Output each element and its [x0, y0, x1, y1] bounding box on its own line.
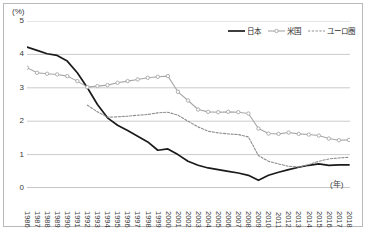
x-axis-tick-label: 1997	[134, 211, 142, 228]
legend-label: ユーロ圏	[327, 28, 355, 36]
data-point-marker	[66, 74, 69, 77]
y-axis-tick-label: 5	[20, 17, 24, 25]
x-axis-tick-label: 1986	[23, 211, 31, 228]
data-point-marker	[227, 110, 230, 113]
x-axis-tick-label: 2018	[345, 211, 353, 228]
x-axis-tick-label: 2012	[285, 211, 293, 228]
data-point-marker	[186, 99, 189, 102]
x-axis-tick-label: 2004	[204, 211, 212, 228]
data-point-marker	[55, 73, 58, 76]
data-point-marker	[76, 79, 79, 82]
x-axis-tick-label: 2011	[275, 212, 283, 228]
chart-container: (%) 012345 19861987198819891990199119921…	[0, 0, 366, 230]
data-point-marker	[116, 81, 119, 84]
y-axis-tick-label: 0	[20, 184, 24, 192]
x-axis-tick-label: 1992	[84, 211, 92, 228]
x-axis-tick-label: 1989	[53, 211, 61, 228]
data-point-marker	[257, 127, 260, 130]
series-line-1	[27, 68, 349, 140]
data-point-marker	[307, 133, 310, 136]
x-axis-tick-label: 1999	[154, 211, 162, 228]
x-axis-tick-label: 1990	[64, 211, 72, 228]
x-axis-tick-label: 1993	[94, 211, 102, 228]
x-axis-tick-label: 1998	[144, 211, 152, 228]
x-axis-tick-label: 2002	[184, 211, 192, 228]
x-axis-tick-label: 2000	[164, 211, 172, 228]
data-point-marker	[347, 138, 350, 141]
data-point-marker	[136, 78, 139, 81]
legend-item-2[interactable]: ユーロ圏	[308, 27, 355, 37]
y-axis-tick-label: 4	[20, 50, 24, 58]
plot-area: 012345	[27, 21, 350, 188]
y-axis-tick-label: 1	[20, 151, 24, 159]
data-point-marker	[126, 79, 129, 82]
data-point-marker	[337, 139, 340, 142]
legend-item-1[interactable]: 米国	[268, 27, 301, 37]
data-point-marker	[317, 134, 320, 137]
x-axis-tick-label: 2008	[245, 211, 253, 228]
data-point-marker	[106, 83, 109, 86]
x-axis-unit-label: (年)	[330, 178, 343, 189]
x-axis-tick-label: 2001	[174, 211, 182, 228]
legend-item-0[interactable]: 日本	[228, 27, 261, 37]
data-point-marker	[176, 90, 179, 93]
x-axis-tick-label: 1987	[33, 211, 41, 228]
x-axis-tick-label: 1991	[74, 211, 82, 228]
x-axis-tick-label: 1988	[43, 211, 51, 228]
x-axis-tick-label: 1994	[104, 211, 112, 228]
x-axis-tick-label: 2014	[305, 211, 313, 228]
data-point-marker	[327, 137, 330, 140]
x-axis-ticks: 1986198719881989199019911992199319941995…	[27, 190, 350, 228]
chart-legend: 日本米国ユーロ圏	[228, 27, 355, 37]
data-point-marker	[196, 108, 199, 111]
data-point-marker	[35, 71, 38, 74]
series-line-0	[27, 47, 349, 180]
data-point-marker	[96, 84, 99, 87]
x-axis-tick-label: 2009	[255, 211, 263, 228]
data-point-marker	[216, 110, 219, 113]
x-axis-tick-label: 1995	[114, 211, 122, 228]
legend-swatch-icon	[308, 27, 325, 37]
y-axis-tick-label: 2	[20, 117, 24, 125]
data-point-marker	[206, 110, 209, 113]
chart-plot-svg	[27, 21, 350, 188]
data-point-marker	[166, 74, 169, 77]
x-axis-tick-label: 2013	[295, 211, 303, 228]
legend-swatch-icon	[268, 27, 285, 37]
data-point-marker	[287, 131, 290, 134]
x-axis-tick-label: 2005	[214, 211, 222, 228]
data-point-marker	[237, 110, 240, 113]
x-axis-tick-label: 2006	[225, 211, 233, 228]
y-axis-unit-label: (%)	[12, 7, 24, 16]
data-point-marker	[156, 75, 159, 78]
x-axis-tick-label: 2007	[235, 211, 243, 228]
data-point-marker	[86, 85, 89, 88]
data-point-marker	[27, 66, 29, 69]
data-point-marker	[267, 132, 270, 135]
data-point-marker	[247, 112, 250, 115]
y-axis-tick-label: 3	[20, 84, 24, 92]
x-axis-tick-label: 2017	[335, 211, 343, 228]
legend-swatch-icon	[228, 27, 245, 37]
x-axis-tick-label: 2003	[194, 211, 202, 228]
x-axis-tick-label: 1996	[124, 211, 132, 228]
data-point-marker	[297, 132, 300, 135]
legend-label: 日本	[247, 28, 261, 36]
x-axis-tick-label: 2016	[325, 211, 333, 228]
x-axis-tick-label: 2015	[315, 211, 323, 228]
x-axis-tick-label: 2010	[265, 211, 273, 228]
data-point-marker	[45, 72, 48, 75]
legend-label: 米国	[287, 28, 301, 36]
data-point-marker	[146, 76, 149, 79]
data-point-marker	[277, 132, 280, 135]
